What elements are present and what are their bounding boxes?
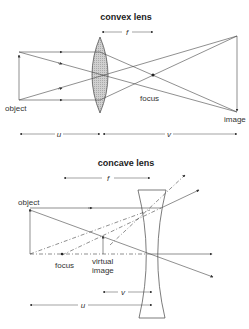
- concave-u-label: u: [81, 301, 86, 310]
- convex-focal-length-dimension: f: [102, 28, 153, 37]
- convex-lens-shape: [92, 37, 108, 113]
- concave-f-label: f: [107, 174, 110, 183]
- concave-focus-point: [61, 253, 63, 255]
- concave-virtual-label-line2: image: [92, 266, 114, 275]
- concave-lens-diagram: concave lens f object focus virt: [18, 158, 213, 318]
- convex-f-label: f: [126, 28, 129, 37]
- concave-distance-dimensions: v u: [30, 288, 152, 310]
- convex-title: convex lens: [100, 12, 152, 22]
- convex-lens-diagram: convex lens f object focus: [5, 12, 246, 139]
- convex-rays: [19, 36, 237, 112]
- convex-focus-point: [152, 74, 155, 77]
- convex-v-label: v: [167, 130, 172, 139]
- concave-title: concave lens: [98, 158, 155, 168]
- convex-u-label: u: [57, 130, 62, 139]
- convex-distance-dimensions: u v: [20, 130, 237, 139]
- concave-focus-label: focus: [55, 261, 74, 270]
- concave-object-label: object: [18, 198, 40, 207]
- concave-focal-length-dimension: f: [64, 174, 150, 183]
- concave-virtual-label-line1: virtual: [92, 257, 114, 266]
- convex-image-label: image: [224, 115, 246, 124]
- convex-object-label: object: [5, 104, 27, 113]
- lens-diagram: convex lens f object focus: [0, 0, 249, 329]
- concave-v-label: v: [121, 288, 126, 297]
- convex-focus-label: focus: [140, 94, 159, 103]
